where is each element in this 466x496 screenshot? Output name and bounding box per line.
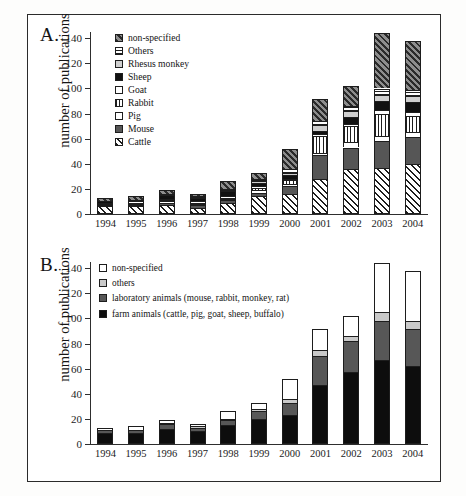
panel-b-bar: [220, 411, 236, 444]
panel-b-bar-segment: [159, 420, 175, 423]
panel-b-bar-segment: [251, 419, 267, 444]
panel-b-bar-segment: [343, 336, 359, 341]
panel-b-bar-segment: [220, 419, 236, 420]
panel-b-bar-segment: [405, 271, 421, 321]
panel-a-bar-segment: [220, 189, 236, 190]
panel-a-bar-segment: [159, 194, 175, 195]
panel-b-legend-label: farm animals (cattle, pig, goat, sheep, …: [112, 309, 284, 319]
panel-b-legend-label: others: [112, 278, 135, 288]
panel-b-x-tick-label: 2004: [393, 448, 433, 459]
panel-a-bar-segment: [405, 132, 421, 137]
panel-b-bar-segment: [128, 430, 144, 433]
panel-a-bar-segment: [251, 183, 267, 187]
panel-b-bar: [405, 271, 421, 444]
panel-a-y-tick: [85, 63, 90, 64]
panel-a-bar-segment: [374, 89, 390, 95]
panel-a-bar-segment: [220, 191, 236, 196]
panel-b-bar-segment: [159, 429, 175, 444]
panel-a-bar-segment: [312, 136, 328, 152]
panel-b-y-tick-label: 20: [71, 413, 82, 425]
panel-a-bar-segment: [159, 201, 175, 202]
panel-b-legend-swatch-farm: [99, 310, 107, 318]
panel-a-bar-segment: [343, 169, 359, 214]
panel-a-bar: [159, 190, 175, 214]
panel-b-bar-segment: [312, 356, 328, 385]
panel-a-bar-segment: [405, 164, 421, 214]
panel-b-bar: [343, 316, 359, 444]
panel-a-bar-segment: [282, 180, 298, 184]
panel-a-bar-segment: [282, 184, 298, 187]
panel-a-y-tick: [85, 88, 90, 89]
panel-a-bar-segment: [343, 148, 359, 169]
panel-a-bar-segment: [405, 90, 421, 96]
panel-a-bar-segment: [343, 106, 359, 111]
panel-b-y-tick: [85, 419, 90, 420]
panel-a-bar-segment: [374, 110, 390, 114]
panel-a-bar-segment: [128, 201, 144, 202]
panel-b-legend-item: non-specified: [99, 262, 289, 273]
panel-b-bar: [374, 263, 390, 444]
panel-b-bar: [159, 420, 175, 444]
panel-a-legend-label: Sheep: [128, 71, 151, 82]
panel-b-bar-segment: [343, 372, 359, 444]
panel-a-legend-item: Rhesus monkey: [115, 58, 189, 69]
panel-b-y-tick-label: 80: [71, 338, 82, 350]
panel-a-y-tick: [85, 38, 90, 39]
panel-a-bar-segment: [312, 134, 328, 137]
panel-a-bar-segment: [282, 175, 298, 179]
panel-a-legend-swatch-mouse: [115, 125, 123, 133]
panel-a-bar-segment: [374, 136, 390, 141]
panel-a-bar-segment: [190, 194, 206, 197]
panel-a-bar-segment: [128, 205, 144, 206]
panel-b-bar-segment: [190, 424, 206, 427]
panel-b-bar-segment: [282, 403, 298, 416]
panel-a-legend-item: Others: [115, 45, 189, 56]
panel-b-x-axis: [90, 444, 428, 445]
panel-a-y-axis-label: number of publications: [56, 1, 73, 161]
panel-a-legend-label: non-specified: [128, 32, 180, 43]
panel-a-bar-segment: [312, 131, 328, 134]
panel-a-bar-segment: [312, 99, 328, 122]
panel-b-bar-segment: [220, 425, 236, 444]
panel-b-y-tick: [85, 318, 90, 319]
panel-a-bar-segment: [374, 114, 390, 137]
panel-a-bar-segment: [312, 125, 328, 131]
panel-a-y-axis: [90, 32, 91, 214]
panel-a-legend-label: Rabbit: [128, 97, 154, 108]
panel-a-bar: [343, 86, 359, 214]
panel-a-bar: [251, 173, 267, 214]
panel-b-bar: [312, 329, 328, 444]
panel-a-bar-segment: [220, 196, 236, 197]
panel-b-legend-label: non-specified: [112, 263, 163, 273]
panel-b-bar-segment: [405, 329, 421, 367]
panel-a-y-tick-label: 0: [77, 208, 83, 220]
panel-a-bar-segment: [220, 199, 236, 200]
panel-a-bar: [282, 149, 298, 214]
panel-a-bar-segment: [282, 186, 298, 194]
panel-a-bar: [312, 99, 328, 214]
panel-a-bar-segment: [312, 179, 328, 214]
panel-a-bar-segment: [190, 196, 206, 197]
panel-b-y-tick: [85, 293, 90, 294]
panel-a-legend-item: Mouse: [115, 123, 189, 134]
panel-b-bar-segment: [190, 428, 206, 432]
panel-a-legend-label: Cattle: [128, 136, 151, 147]
panel-b-bar-segment: [159, 423, 175, 424]
panel-a-legend: non-specifiedOthersRhesus monkeySheepGoa…: [115, 32, 189, 149]
panel-b-bar-segment: [374, 312, 390, 321]
panel-a-legend-swatch-nonspec: [115, 34, 123, 42]
panel-b-bar-segment: [374, 263, 390, 312]
panel-a-bar-segment: [159, 203, 175, 206]
panel-a-bar-segment: [251, 196, 267, 214]
panel-a-bar: [374, 33, 390, 214]
panel-a-bar-segment: [343, 117, 359, 123]
panel-a-bar-segment: [190, 205, 206, 208]
panel-a-bar-segment: [97, 204, 113, 205]
panel-a-bar-segment: [343, 124, 359, 127]
panel-a-bar-segment: [312, 153, 328, 156]
panel-a-bar: [220, 181, 236, 214]
panel-a-bar-segment: [251, 193, 267, 197]
panel-b-bar-segment: [220, 411, 236, 419]
panel-b-bar-segment: [343, 316, 359, 336]
panel-b-y-tick: [85, 344, 90, 345]
